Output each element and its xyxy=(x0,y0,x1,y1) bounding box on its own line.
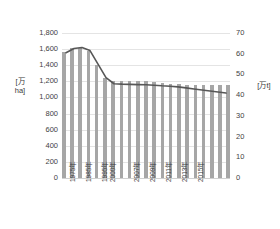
left-axis-tick-label: 1,600 xyxy=(39,45,58,53)
left-axis-tick-label: 1,400 xyxy=(39,61,58,69)
right-axis-tick-label: 60 xyxy=(236,50,244,58)
right-axis-tick-label: 70 xyxy=(236,29,244,37)
line-series xyxy=(62,33,230,178)
right-axis-tick-label: 50 xyxy=(236,70,244,78)
plot-area xyxy=(62,33,230,178)
right-axis-tick-label: 10 xyxy=(236,153,244,161)
x-axis-tick-labels: 1975年1985年1995年2000年2007年2009年2011年2013年… xyxy=(62,180,230,228)
x-axis-tick-label: 2015年 xyxy=(197,161,204,182)
right-axis-tick-label: 0 xyxy=(236,174,240,182)
left-axis-tick-label: 200 xyxy=(45,158,58,166)
right-axis-tick-labels: 706050403020100 xyxy=(230,0,260,229)
left-axis-tick-label: 400 xyxy=(45,142,58,150)
right-axis-tick-label: 30 xyxy=(236,112,244,120)
left-axis-tick-label: 1,200 xyxy=(39,77,58,85)
x-axis-tick-label: 2000年 xyxy=(109,161,116,182)
left-axis-tick-label: 1,000 xyxy=(39,93,58,101)
left-axis-tick-labels: 1,8001,6001,4001,2001,0008006004002000 xyxy=(30,0,60,229)
left-axis-title: [万ha] xyxy=(12,78,28,95)
left-axis-tick-label: 0 xyxy=(54,174,58,182)
x-axis-tick-label: 1975年 xyxy=(69,161,76,182)
left-axis-tick-label: 1,800 xyxy=(39,29,58,37)
right-axis-tick-label: 40 xyxy=(236,91,244,99)
x-axis-tick-label: 1985年 xyxy=(85,161,92,182)
x-axis-tick-label: 2011年 xyxy=(165,161,172,182)
x-axis-tick-label: 2009年 xyxy=(149,161,156,182)
x-axis-tick-label: 2007年 xyxy=(133,161,140,182)
chart-container: [万ha] [万t] 1,8001,6001,4001,2001,0008006… xyxy=(0,0,280,229)
x-axis-tick-label: 1995年 xyxy=(101,161,108,182)
left-axis-tick-label: 600 xyxy=(45,126,58,134)
x-axis-tick-label: 2013年 xyxy=(181,161,188,182)
left-axis-tick-label: 800 xyxy=(45,110,58,118)
right-axis-tick-label: 20 xyxy=(236,133,244,141)
